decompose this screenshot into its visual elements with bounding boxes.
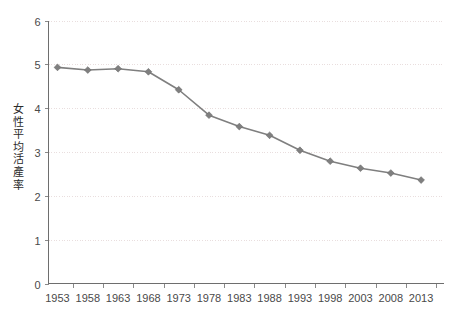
y-axis-tick-label: 2	[34, 191, 40, 203]
y-axis-tick-label: 0	[34, 279, 40, 291]
data-point-marker: 1968: 4.83	[145, 68, 152, 75]
y-axis-tick-label: 6	[34, 16, 40, 28]
x-axis-tick-label: 1978	[197, 292, 221, 304]
y-axis-tick-label: 1	[34, 235, 40, 247]
x-axis-tick-label: 1988	[257, 292, 281, 304]
data-point-marker: 1993: 3.04	[297, 147, 304, 154]
x-axis-tick-label: 1993	[288, 292, 312, 304]
x-axis-tick-label: 1953	[45, 292, 69, 304]
plot-area: 1953: 4.931958: 4.871963: 4.91968: 4.831…	[0, 0, 455, 320]
x-axis-tick-label: 1958	[76, 292, 100, 304]
x-axis-tick-label: 1983	[227, 292, 251, 304]
x-axis-tick-label: 1973	[166, 292, 190, 304]
x-axis-tick-label: 2013	[409, 292, 433, 304]
x-axis-tick-label: 1998	[318, 292, 342, 304]
data-point-marker: 1963: 4.9	[115, 65, 122, 72]
data-point-marker: 2013: 2.36	[418, 177, 425, 184]
data-point-marker: 1983: 3.58	[236, 123, 243, 130]
gridlines	[49, 22, 444, 241]
x-axis-tick-label: 1968	[136, 292, 160, 304]
y-axis-tick-labels: 0123456	[34, 16, 40, 291]
data-point-marker: 1958: 4.87	[84, 67, 91, 74]
data-series: 1953: 4.931958: 4.871963: 4.91968: 4.831…	[54, 64, 424, 183]
data-point-marker: 1988: 3.38	[266, 132, 273, 139]
y-axis-tick-label: 5	[34, 59, 40, 71]
y-axis-tick-label: 4	[34, 103, 40, 115]
x-axis-tick-labels: 1953195819631968197319781983198819931998…	[45, 292, 433, 304]
y-axis-tick-label: 3	[34, 147, 40, 159]
line-chart: 女性平均活產率 1953: 4.931958: 4.871963: 4.9196…	[0, 0, 455, 320]
x-axis-tick-label: 2003	[348, 292, 372, 304]
data-point-marker: 2003: 2.63	[357, 165, 364, 172]
x-axis-tick-label: 1963	[106, 292, 130, 304]
x-axis-tick-label: 2008	[379, 292, 403, 304]
data-point-marker: 2008: 2.52	[387, 170, 394, 177]
data-point-marker: 1953: 4.93	[54, 64, 61, 71]
data-point-marker: 1998: 2.79	[327, 158, 334, 165]
